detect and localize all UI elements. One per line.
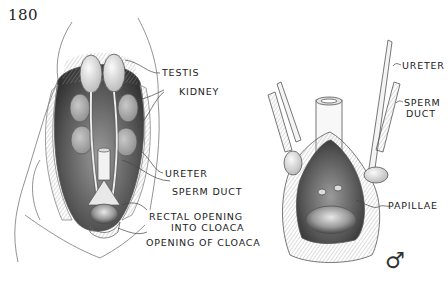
male-symbol-icon: ♂ [385, 248, 405, 273]
label-testis: TESTIS [162, 67, 199, 78]
rectum [98, 148, 110, 180]
label-rectal-opening-line2: INTO CLOACA [171, 222, 244, 233]
label-papillae: PAPILLAE [388, 200, 438, 211]
label-sperm-right-line1: SPERM [404, 97, 441, 108]
label-kidney: KIDNEY [179, 86, 219, 97]
label-ureter-right: URETER [402, 60, 445, 71]
label-sperm-duct: SPERM DUCT [172, 186, 242, 197]
right-figure [268, 40, 400, 263]
label-opening-of-cloaca: OPENING OF CLOACA [146, 237, 261, 248]
label-rectal-opening-line1: RECTAL OPENING [149, 211, 243, 222]
label-sperm-right-line2: DUCT [406, 108, 436, 119]
label-ureter: URETER [165, 168, 208, 179]
